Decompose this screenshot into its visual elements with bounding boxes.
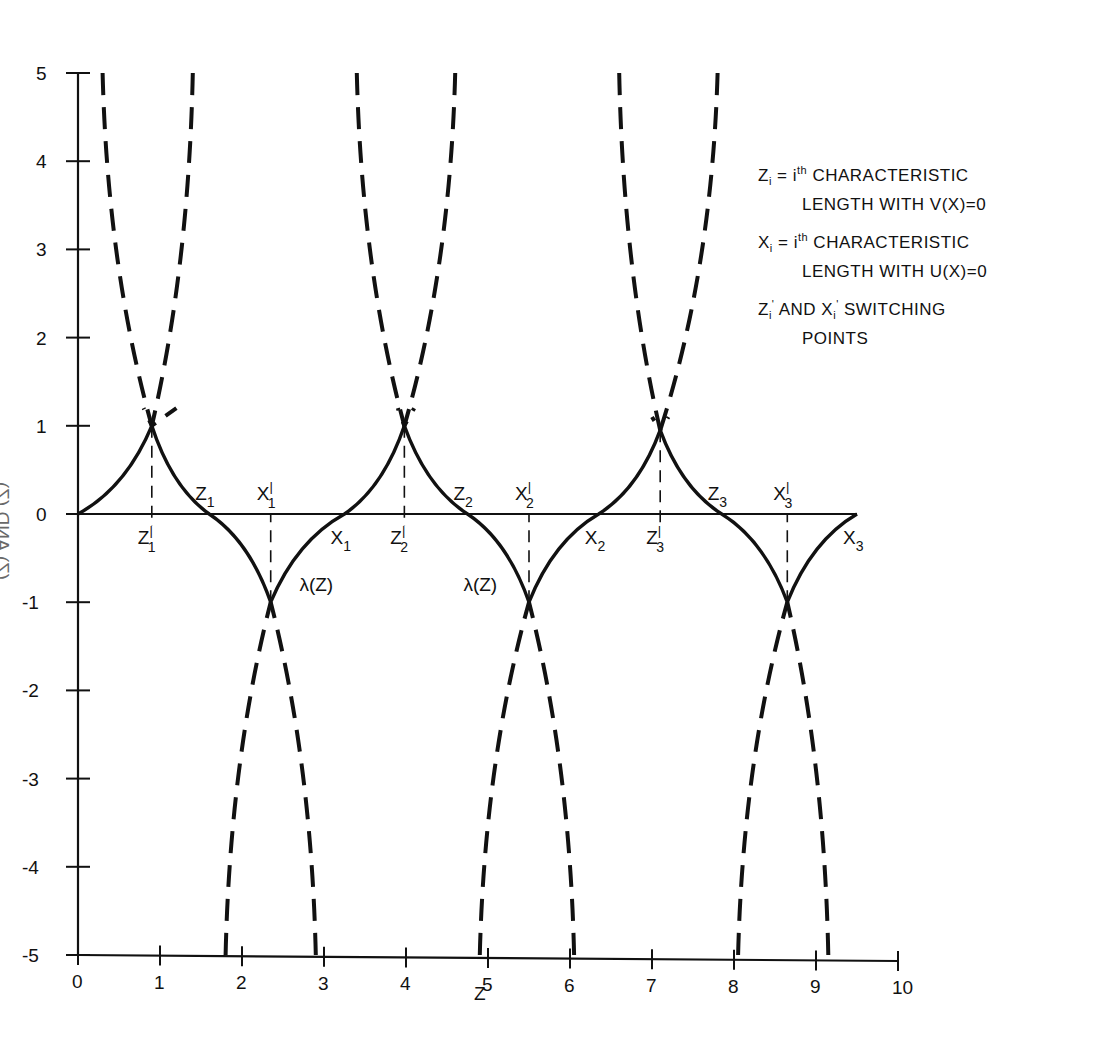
dashed-branch	[357, 73, 414, 426]
point-label: X|3	[773, 479, 792, 511]
legend-entry-zi: Zi = ith CHARACTERISTIC LENGTH WITH V(X)…	[758, 158, 1098, 217]
point-annotations: Z|1Z1X|1X1Z|2Z2X|2X2Z|3Z3X|3X3λ(Z)λ(Z)	[138, 479, 864, 595]
y-tick-label: 4	[36, 151, 47, 172]
dashed-branch	[480, 602, 529, 955]
point-label: λ(Z)	[463, 574, 497, 595]
legend-text: CHARACTERISTIC	[808, 233, 969, 252]
legend-symbol: X	[758, 233, 770, 252]
dashed-branch	[619, 73, 668, 430]
dashed-branch	[144, 73, 193, 426]
point-label: λ(Z)	[299, 574, 333, 595]
point-label: X2	[585, 527, 606, 554]
legend-text: AND X	[774, 300, 833, 319]
legend-eq: = i	[773, 233, 798, 252]
x-tick-label: 7	[646, 975, 657, 996]
dashed-branch	[226, 602, 271, 955]
y-tick-label: 2	[36, 328, 47, 349]
point-label: X|2	[515, 479, 534, 511]
dashed-branch	[738, 602, 787, 955]
dashed-branch	[787, 602, 828, 955]
y-tick-label: 3	[36, 239, 47, 260]
dashed-branch	[652, 73, 718, 430]
legend-text-line2: LENGTH WITH V(X)=0	[758, 193, 1098, 217]
dashed-branch	[398, 73, 455, 426]
dashed-branch	[271, 602, 316, 955]
point-label: Z|2	[390, 523, 408, 555]
point-label: X1	[331, 527, 352, 554]
point-label: Z|1	[138, 523, 156, 555]
legend-entry-switching: Zi' AND Xi' SWITCHING POINTS	[758, 292, 1098, 351]
legend-sup: th	[797, 164, 807, 176]
x-axis-label: Z	[474, 983, 486, 1004]
point-label: X3	[843, 527, 864, 554]
y-tick-label: 0	[36, 504, 47, 525]
x-tick-label: 6	[564, 975, 575, 996]
legend-text: CHARACTERISTIC	[807, 166, 968, 185]
y-tick-label: -4	[22, 857, 39, 878]
x-tick-label: 0	[72, 971, 83, 992]
y-tick-label: 5	[36, 63, 47, 84]
y-tick-label: 1	[36, 416, 47, 437]
legend-text: SWITCHING	[839, 300, 946, 319]
dashed-branch	[103, 73, 177, 426]
x-tick-label: 10	[892, 977, 913, 998]
dashed-branch	[529, 602, 574, 955]
legend-subscript: i	[833, 309, 836, 321]
x-tick-label: 1	[154, 972, 165, 993]
y-tick-label: -2	[22, 680, 39, 701]
y-tick-label: -5	[22, 945, 39, 966]
x-tick-label: 9	[810, 976, 821, 997]
legend-sup: th	[798, 231, 808, 243]
point-label: X|1	[257, 479, 276, 511]
legend-text-line2: POINTS	[758, 327, 1098, 351]
legend-text-line2: LENGTH WITH U(X)=0	[758, 260, 1098, 284]
y-tick-label: -1	[22, 592, 39, 613]
legend-entry-xi: Xi = ith CHARACTERISTIC LENGTH WITH U(X)…	[758, 225, 1098, 284]
y-tick-label: -3	[22, 769, 39, 790]
x-tick-label: 3	[318, 973, 329, 994]
x-tick-label: 4	[400, 973, 411, 994]
legend-eq: = i	[772, 166, 797, 185]
legend-symbol: Z	[758, 166, 769, 185]
chart-legend: Zi = ith CHARACTERISTIC LENGTH WITH V(X)…	[758, 158, 1098, 359]
legend-symbol: Z	[758, 300, 769, 319]
x-tick-label: 8	[728, 976, 739, 997]
legend-subscript: i	[769, 309, 772, 321]
x-tick-label: 2	[236, 972, 247, 993]
point-label: Z|3	[646, 523, 664, 555]
